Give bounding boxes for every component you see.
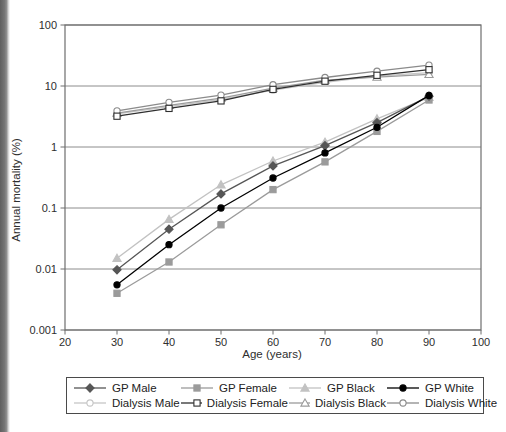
legend-marker-dialysis-female <box>180 397 202 409</box>
legend-marker-dialysis-black <box>288 397 310 409</box>
svg-text:10: 10 <box>45 80 57 92</box>
legend-marker-gp-male <box>73 382 107 394</box>
svg-text:90: 90 <box>423 336 435 348</box>
legend-label: GP Male <box>112 382 157 394</box>
legend-marker-dialysis-male <box>73 397 107 409</box>
legend-item-dialysis-black: Dialysis Black <box>288 397 386 409</box>
scanned-figure-page: 20304050607080901001001010.10.010.001 An… <box>0 0 506 432</box>
legend-item-dialysis-female: Dialysis Female <box>180 397 288 409</box>
data-series <box>113 62 433 296</box>
svg-text:40: 40 <box>163 336 175 348</box>
legend-item-dialysis-male: Dialysis Male <box>73 397 180 409</box>
mortality-chart: 20304050607080901001001010.10.010.001 An… <box>0 0 506 375</box>
svg-text:30: 30 <box>111 336 123 348</box>
legend-label: GP Female <box>219 382 277 394</box>
svg-text:100: 100 <box>472 336 490 348</box>
legend-marker-gp-female <box>180 382 214 394</box>
svg-text:20: 20 <box>59 336 71 348</box>
svg-text:60: 60 <box>267 336 279 348</box>
legend-item-gp-white: GP White <box>386 382 497 394</box>
legend-item-gp-black: GP Black <box>288 382 386 394</box>
chart-legend: GP MaleGP FemaleGP BlackGP WhiteDialysis… <box>66 377 484 414</box>
svg-text:0.01: 0.01 <box>36 263 57 275</box>
legend-marker-gp-black <box>288 382 322 394</box>
page-scan-edge <box>0 0 10 432</box>
legend-label: GP White <box>425 382 474 394</box>
legend-item-gp-female: GP Female <box>180 382 288 394</box>
legend-marker-dialysis-white <box>386 397 420 409</box>
legend-item-gp-male: GP Male <box>73 382 180 394</box>
legend-label: Dialysis Female <box>207 397 288 409</box>
series-dialysis-female <box>114 67 432 120</box>
legend-label: Dialysis White <box>425 397 497 409</box>
x-axis-title: Age (years) <box>242 348 302 360</box>
legend-label: Dialysis Male <box>112 397 180 409</box>
svg-text:70: 70 <box>319 336 331 348</box>
series-gp-female <box>114 97 432 297</box>
svg-text:100: 100 <box>39 19 57 31</box>
svg-text:0.1: 0.1 <box>42 202 57 214</box>
legend-item-dialysis-white: Dialysis White <box>386 397 497 409</box>
legend-marker-gp-white <box>386 382 420 394</box>
legend-label: Dialysis Black <box>315 397 386 409</box>
legend-label: GP Black <box>327 382 375 394</box>
series-gp-male <box>113 92 433 274</box>
tick-labels: 20304050607080901001001010.10.010.001 <box>29 19 490 348</box>
svg-text:1: 1 <box>51 141 57 153</box>
svg-text:50: 50 <box>215 336 227 348</box>
svg-text:0.001: 0.001 <box>29 324 57 336</box>
y-axis-title: Annual mortality (%) <box>10 138 22 242</box>
svg-text:80: 80 <box>371 336 383 348</box>
